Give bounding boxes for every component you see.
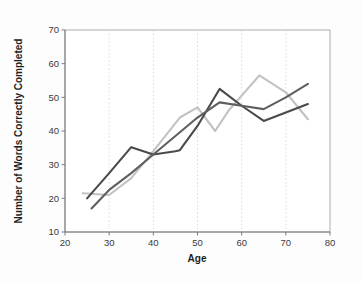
x-tick-label: 60 [236, 237, 247, 248]
x-tick-label: 20 [60, 237, 71, 248]
y-axis-title: Number of Words Correctly Completed [13, 39, 24, 224]
x-axis-title: Age [188, 253, 207, 264]
x-tick-label: 30 [104, 237, 115, 248]
y-tick-label: 10 [48, 226, 59, 237]
y-tick-label: 70 [48, 24, 59, 35]
y-tick-label: 30 [48, 159, 59, 170]
chart-container: 20304050607080 10203040506070 Age Number… [0, 0, 362, 282]
y-tick-label: 50 [48, 92, 59, 103]
y-tick-label: 40 [48, 125, 59, 136]
x-tick-label: 80 [325, 237, 336, 248]
x-tick-label: 50 [192, 237, 203, 248]
x-tick-label: 70 [281, 237, 292, 248]
line-chart: 20304050607080 10203040506070 Age Number… [0, 0, 362, 282]
y-tick-label: 20 [48, 193, 59, 204]
y-tick-label: 60 [48, 58, 59, 69]
x-tick-label: 40 [148, 237, 159, 248]
